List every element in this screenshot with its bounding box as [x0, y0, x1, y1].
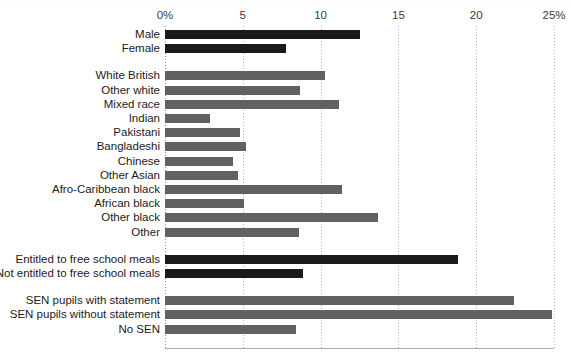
category-label: Other white	[101, 83, 160, 97]
bar-row: Other black	[165, 213, 554, 222]
bar-row: Chinese	[165, 157, 554, 166]
x-tick-label-10: 10	[314, 8, 327, 22]
bar-row: Bangladeshi	[165, 142, 554, 151]
bar	[165, 128, 240, 137]
category-label: Bangladeshi	[97, 139, 160, 153]
category-label: Other black	[101, 210, 160, 224]
bar	[165, 100, 339, 109]
bar	[165, 114, 210, 123]
bar	[165, 86, 300, 95]
category-label: Other	[131, 225, 160, 239]
category-label: No SEN	[118, 322, 160, 336]
bar	[165, 255, 458, 264]
x-tick-label-5: 5	[240, 8, 246, 22]
bar-row: Entitled to free school meals	[165, 255, 554, 264]
category-label: Afro-Caribbean black	[52, 182, 160, 196]
x-tick-label-20: 20	[470, 8, 483, 22]
axis-baseline	[165, 348, 554, 349]
x-axis-tick-labels: 0%510152025%	[0, 8, 573, 24]
bar-row: Other white	[165, 86, 554, 95]
category-label: Mixed race	[104, 97, 160, 111]
bar-row: Other Asian	[165, 171, 554, 180]
category-label: African black	[94, 196, 160, 210]
category-label: Male	[135, 27, 160, 41]
bar	[165, 171, 238, 180]
bar	[165, 44, 286, 53]
category-label: Not entitled to free school meals	[0, 266, 160, 280]
bar-row: No SEN	[165, 325, 554, 334]
bar	[165, 71, 325, 80]
x-tick-label-25: 25%	[542, 8, 565, 22]
bar	[165, 30, 360, 39]
bar-chart: 0%510152025% MaleFemaleWhite BritishOthe…	[0, 0, 573, 357]
bar	[165, 142, 246, 151]
bar-row: Afro-Caribbean black	[165, 185, 554, 194]
bar	[165, 213, 378, 222]
bar	[165, 199, 244, 208]
bar	[165, 296, 514, 305]
category-label: SEN pupils with statement	[26, 293, 160, 307]
bar-row: SEN pupils without statement	[165, 310, 554, 319]
bar	[165, 185, 342, 194]
category-label: White British	[95, 68, 160, 82]
bar-row: Mixed race	[165, 100, 554, 109]
category-label: Female	[122, 41, 160, 55]
category-label: Indian	[129, 111, 160, 125]
x-tick-label-15: 15	[392, 8, 405, 22]
category-label: Pakistani	[113, 125, 160, 139]
bar	[165, 325, 296, 334]
gridline-25	[554, 26, 555, 348]
bar-row: Female	[165, 44, 554, 53]
bar-row: White British	[165, 71, 554, 80]
bar-row: SEN pupils with statement	[165, 296, 554, 305]
bar-row: Male	[165, 30, 554, 39]
category-label: Chinese	[118, 154, 160, 168]
category-label: SEN pupils without statement	[10, 307, 160, 321]
bar	[165, 157, 233, 166]
category-label: Other Asian	[100, 168, 160, 182]
category-label: Entitled to free school meals	[16, 252, 160, 266]
bar-row: African black	[165, 199, 554, 208]
bar	[165, 228, 299, 237]
bar-row: Pakistani	[165, 128, 554, 137]
bar-row: Other	[165, 228, 554, 237]
bar-row: Not entitled to free school meals	[165, 269, 554, 278]
plot-area: MaleFemaleWhite BritishOther whiteMixed …	[165, 26, 554, 348]
bar	[165, 310, 552, 319]
scan-artifact-strip	[0, 0, 573, 6]
bar-row: Indian	[165, 114, 554, 123]
x-tick-label-0: 0%	[157, 8, 174, 22]
bar	[165, 269, 303, 278]
